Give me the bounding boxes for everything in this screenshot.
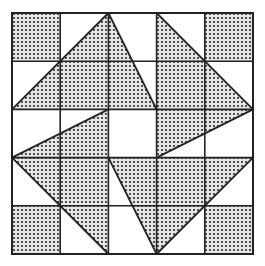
shaded-sq-bottom-left xyxy=(12,206,60,254)
shaded-sq-bottom-right xyxy=(205,206,253,254)
quilt-pattern-diagram xyxy=(0,0,265,266)
shaded-shapes xyxy=(12,13,253,254)
shaded-sq-top-left xyxy=(12,13,60,61)
shaded-sq-top-right xyxy=(205,13,253,61)
